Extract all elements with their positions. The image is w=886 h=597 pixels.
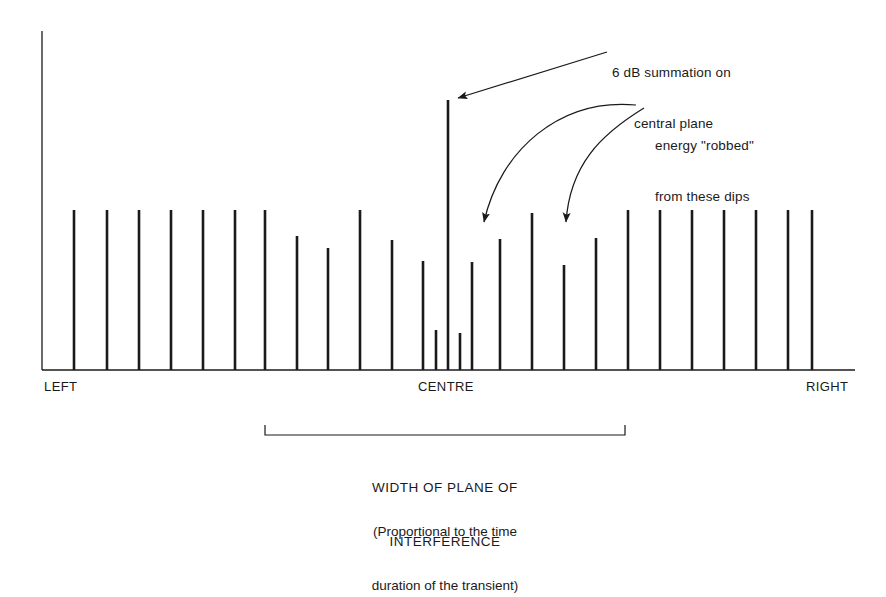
sub-caption: (Proportional to the time duration of th… [285, 487, 605, 597]
summation-annotation-line1: 6 dB summation on [612, 64, 842, 81]
width-bracket-path [265, 425, 625, 435]
summation-leader-group [458, 52, 607, 98]
sub-caption-line1: (Proportional to the time [285, 523, 605, 541]
robbed-annotation-line1: energy "robbed" [655, 137, 875, 154]
axis-label-left: LEFT [44, 379, 77, 394]
sub-caption-line2: duration of the transient) [285, 577, 605, 595]
robbed-annotation: energy "robbed" from these dips [655, 103, 875, 239]
width-bracket [265, 425, 625, 435]
axis-label-right: RIGHT [806, 379, 848, 394]
summation-leader-line [458, 52, 607, 98]
robbed-annotation-line2: from these dips [655, 188, 875, 205]
axis-label-centre: CENTRE [418, 379, 474, 394]
